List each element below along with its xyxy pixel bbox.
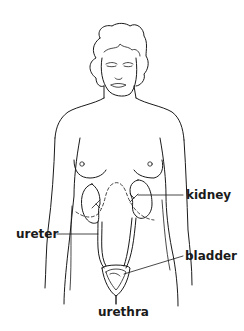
label-urethra: urethra <box>98 305 149 319</box>
urinary-organs <box>76 180 154 304</box>
head <box>90 23 148 98</box>
kidney-left <box>81 184 100 223</box>
label-bladder: bladder <box>185 249 237 263</box>
urinary-system-diagram: kidney ureter bladder urethra <box>0 0 244 331</box>
leader-lines <box>57 195 183 304</box>
label-kidney: kidney <box>186 188 231 202</box>
bladder-leader <box>124 256 183 274</box>
bladder-shape <box>102 265 130 296</box>
label-ureter: ureter <box>16 227 58 241</box>
body-illustration <box>0 0 244 331</box>
ureter-left <box>98 222 104 268</box>
